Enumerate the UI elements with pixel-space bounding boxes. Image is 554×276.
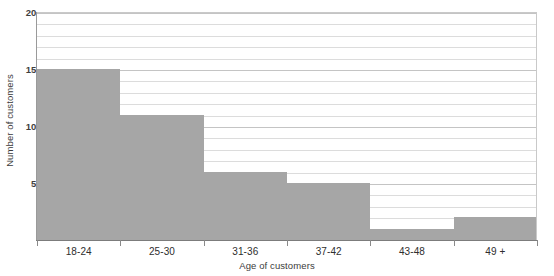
bar [37, 69, 120, 240]
bar [204, 172, 287, 240]
bar [120, 115, 203, 240]
x-tick-label: 31-36 [204, 246, 287, 257]
y-axis-title-text: Number of customers [4, 74, 15, 167]
x-axis-title: Age of customers [0, 260, 554, 271]
y-tick-label: 20 [14, 7, 36, 18]
x-tick-label: 43-48 [370, 246, 453, 257]
x-tick-label: 37-42 [287, 246, 370, 257]
x-tick-label: 49 + [454, 246, 537, 257]
y-tick-label: 5 [14, 178, 36, 189]
plot-area [37, 12, 537, 240]
x-tick-label: 18-24 [37, 246, 120, 257]
bar-series [37, 13, 536, 240]
x-tick-label: 25-30 [120, 246, 203, 257]
y-tick-label: 10 [14, 121, 36, 132]
bar [287, 183, 370, 240]
x-tick [537, 240, 538, 246]
y-tick-label: 15 [14, 64, 36, 75]
y-axis-tick-labels: 5101520 [14, 0, 36, 276]
bar [370, 229, 453, 240]
histogram-chart: Number of customers 5101520 18-2425-3031… [0, 0, 554, 276]
bar [454, 217, 537, 240]
